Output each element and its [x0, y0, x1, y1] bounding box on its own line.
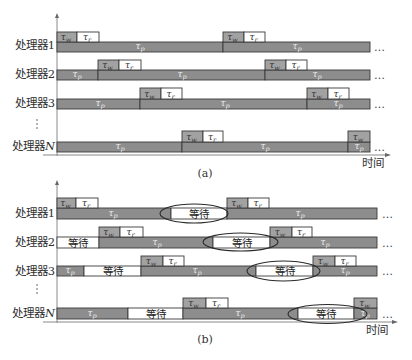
panel-caption: (b) [197, 333, 213, 346]
row-processor-3: 处理器3τpτpτpτwτrτwτr… [15, 88, 386, 111]
row-processor-3: 处理器3τp等待τp等待τpτwτrτwτr… [15, 256, 394, 282]
time-axis-arrow-icon [385, 153, 391, 157]
row-processor-1: 处理器1τpτpτwτrτwτr… [15, 32, 386, 55]
continuation-dots: … [382, 265, 394, 278]
dot [36, 127, 38, 129]
continuation-dots: … [374, 141, 386, 154]
wait-label: 等待 [68, 237, 89, 249]
continuation-dots: … [374, 98, 386, 111]
row-processor-2: 处理器2τpτpτpτwτrτwτr… [15, 60, 386, 83]
time-axis-label: 时间 [362, 156, 384, 170]
vertical-ellipsis-icon [36, 119, 38, 129]
panel-a: 处理器1τpτpτwτrτwτr…处理器2τpτpτpτwτrτwτr…处理器3… [12, 13, 391, 180]
continuation-dots: … [382, 308, 394, 321]
timing-diagram-svg: 处理器1τpτpτwτrτwτr…处理器2τpτpτpτwτrτwτr…处理器3… [0, 0, 412, 360]
y-axis-arrow-icon [55, 13, 59, 18]
row-processor-n: 处理器Nτp等待τp等待τpτwτrτw… [12, 298, 394, 324]
y-axis-arrow-icon [55, 180, 59, 185]
vertical-ellipsis-icon [36, 284, 38, 294]
wait-label: 等待 [146, 308, 167, 320]
dot [36, 123, 38, 125]
processor-label: 处理器1 [15, 38, 55, 52]
processor-label: 处理器2 [15, 67, 55, 81]
wait-label: 等待 [103, 265, 124, 277]
row-processor-1: 处理器1τp等待τpτwτrτwτr… [15, 198, 394, 224]
panel-caption: (a) [197, 167, 212, 180]
continuation-dots: … [374, 41, 386, 54]
dot [36, 119, 38, 121]
dot [36, 292, 38, 294]
continuation-dots: … [374, 69, 386, 82]
continuation-dots: … [382, 208, 394, 221]
row-processor-n: 处理器Nτpτpτpτwτrτw… [12, 131, 386, 154]
wait-label: 等待 [189, 208, 210, 220]
time-axis-label: 时间 [366, 323, 388, 337]
row-processor-2: 处理器2等待τp等待τpτwτrτwτr… [15, 227, 394, 252]
processor-label: 处理器2 [15, 235, 55, 249]
panel-b: 处理器1τp等待τpτwτrτwτr…处理器2等待τp等待τpτwτrτwτr…… [12, 180, 398, 346]
dot [36, 288, 38, 290]
processor-label: 处理器N [12, 306, 56, 320]
processor-label: 处理器1 [15, 206, 55, 220]
wait-label: 等待 [232, 237, 253, 249]
processor-label: 处理器3 [15, 264, 55, 278]
processor-label: 处理器3 [15, 96, 55, 110]
processor-label: 处理器N [12, 139, 56, 153]
wait-label: 等待 [316, 308, 337, 320]
dot [36, 284, 38, 286]
wait-label: 等待 [275, 265, 296, 277]
continuation-dots: … [382, 237, 394, 250]
timing-diagram-figure: 处理器1τpτpτwτrτwτr…处理器2τpτpτpτwτrτwτr…处理器3… [0, 0, 412, 360]
